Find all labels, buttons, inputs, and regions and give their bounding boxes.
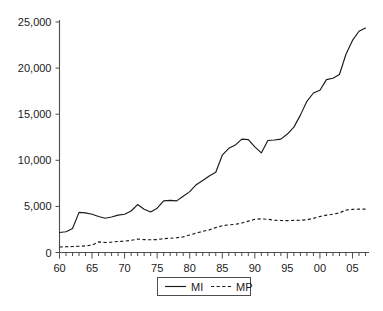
- x-tick-label: 05: [346, 262, 358, 274]
- x-axis: 60657075808590950005: [53, 253, 369, 274]
- x-tick-label: 80: [184, 262, 196, 274]
- x-tick-label: 85: [216, 262, 228, 274]
- x-tick-label: 60: [53, 262, 65, 274]
- chart-container: 05,00010,00015,00020,00025,000 606570758…: [0, 0, 383, 311]
- y-tick-label: 20,000: [18, 62, 52, 74]
- series-line-mi: [60, 28, 366, 233]
- y-tick-label: 5,000: [24, 200, 52, 212]
- x-tick-label: 95: [281, 262, 293, 274]
- y-tick-label: 15,000: [18, 108, 52, 120]
- y-axis-ticks: [56, 22, 60, 253]
- x-tick-label: 65: [86, 262, 98, 274]
- x-tick-label: 70: [118, 262, 130, 274]
- y-tick-label: 0: [45, 247, 51, 259]
- legend-label-mi: MI: [191, 281, 203, 293]
- y-axis-tick-labels: 05,00010,00015,00020,00025,000: [18, 16, 52, 259]
- x-tick-label: 00: [314, 262, 326, 274]
- x-tick-label: 75: [151, 262, 163, 274]
- y-axis: 05,00010,00015,00020,00025,000: [18, 16, 60, 259]
- chart-legend: MI MP: [158, 278, 253, 296]
- legend-label-mp: MP: [236, 281, 253, 293]
- y-tick-label: 25,000: [18, 16, 52, 28]
- x-tick-label: 90: [249, 262, 261, 274]
- y-tick-label: 10,000: [18, 154, 52, 166]
- plot-area: [60, 28, 366, 247]
- x-axis-ticks: [60, 253, 366, 259]
- series-line-mp: [60, 209, 366, 247]
- line-chart: 05,00010,00015,00020,00025,000 606570758…: [0, 0, 383, 311]
- x-axis-tick-labels: 60657075808590950005: [53, 262, 358, 274]
